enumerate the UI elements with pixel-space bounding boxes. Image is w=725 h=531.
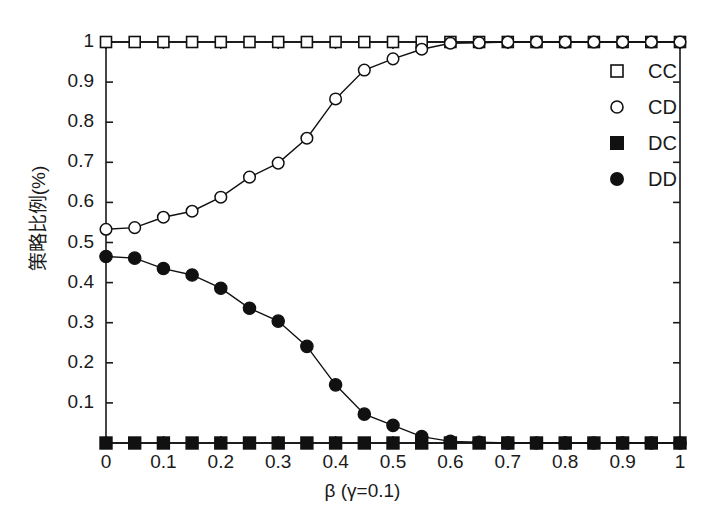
y-tick-label: 0.2 [30,351,94,373]
data-point-marker [387,53,399,65]
data-point-marker [272,437,284,449]
legend-label: DD [648,168,677,191]
data-point-marker [330,37,341,48]
plot-frame [106,42,680,443]
y-tick-label: 1 [30,30,94,52]
data-point-marker [186,205,198,217]
data-point-marker [273,37,284,48]
series-line [106,42,680,229]
series-cd [100,36,686,235]
data-series-layer [100,36,686,449]
data-point-marker [387,437,399,449]
legend-item-dc[interactable]: DC [600,128,677,158]
series-dd [100,250,686,449]
data-point-marker [272,157,284,169]
data-point-marker [157,262,169,274]
data-point-marker [388,37,399,48]
data-point-marker [187,37,198,48]
data-point-marker [215,282,227,294]
open-square-icon [600,61,634,81]
y-tick-label: 0.1 [30,391,94,413]
x-tick-label: 1 [650,451,710,473]
data-point-marker [502,36,514,48]
data-point-marker [129,252,141,264]
x-tick-label: 0.1 [133,451,193,473]
data-point-marker [301,437,313,449]
legend-item-cc[interactable]: CC [600,56,677,86]
data-point-marker [387,419,399,431]
data-point-marker [158,211,170,223]
data-point-marker [473,37,485,49]
data-point-marker [502,437,514,449]
legend-item-cd[interactable]: CD [600,92,677,122]
data-point-marker [330,93,342,105]
x-axis-ticks [106,42,680,443]
data-point-marker [588,437,600,449]
legend-label: CC [648,60,677,83]
data-point-marker [616,437,628,449]
x-tick-label: 0.7 [478,451,538,473]
x-tick-label: 0.6 [420,451,480,473]
data-point-marker [330,437,342,449]
data-point-marker [158,37,169,48]
data-point-marker [157,437,169,449]
data-point-marker [530,437,542,449]
filled-circle-icon [600,169,634,189]
data-point-marker [358,408,370,420]
data-point-marker [215,437,227,449]
data-point-marker [101,37,112,48]
data-point-marker [186,437,198,449]
filled-square-icon [600,133,634,153]
data-point-marker [129,222,141,234]
data-point-marker [100,250,112,262]
data-point-marker [359,64,371,76]
data-point-marker [329,379,341,391]
y-axis-label: 策略比例(%) [23,139,50,299]
data-point-marker [186,269,198,281]
x-axis-label: β (γ=0.1) [0,480,725,502]
data-point-marker [416,43,428,55]
data-point-marker [301,37,312,48]
x-tick-label: 0.2 [191,451,251,473]
x-tick-label: 0.5 [363,451,423,473]
x-tick-label: 0 [76,451,136,473]
data-point-marker [588,36,600,48]
data-point-marker [243,302,255,314]
legend-label: DC [648,132,677,155]
series-line [106,257,680,443]
y-tick-label: 0.8 [30,110,94,132]
data-point-marker [559,437,571,449]
data-point-marker [359,37,370,48]
data-point-marker [674,437,686,449]
x-tick-label: 0.9 [593,451,653,473]
chart-figure: 0.10.20.30.40.50.60.70.80.91 00.10.20.30… [0,0,725,531]
data-point-marker [215,191,227,203]
data-point-marker [100,437,112,449]
data-point-marker [445,37,457,49]
y-axis-ticks [106,42,680,403]
data-point-marker [416,430,428,442]
x-tick-label: 0.8 [535,451,595,473]
open-circle-icon [600,97,634,117]
data-point-marker [301,132,313,144]
data-point-marker [244,437,256,449]
data-point-marker [272,315,284,327]
data-point-marker [617,36,629,48]
data-point-marker [531,36,543,48]
data-point-marker [646,36,658,48]
data-point-marker [244,37,255,48]
data-point-marker [444,435,456,447]
data-point-marker [358,437,370,449]
data-point-marker [559,36,571,48]
data-point-marker [473,436,485,448]
data-point-marker [301,340,313,352]
legend-item-dd[interactable]: DD [600,164,677,194]
data-point-marker [215,37,226,48]
x-tick-label: 0.3 [248,451,308,473]
data-point-marker [244,171,256,183]
y-tick-label: 0.9 [30,70,94,92]
data-point-marker [129,437,141,449]
x-tick-label: 0.4 [306,451,366,473]
data-point-marker [129,37,140,48]
data-point-marker [100,223,112,235]
